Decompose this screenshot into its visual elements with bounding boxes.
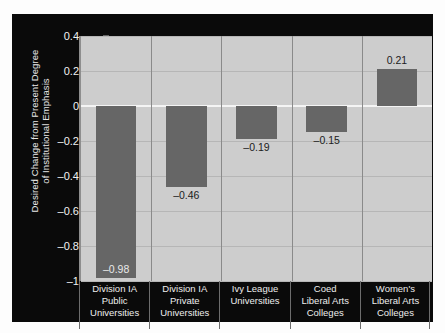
category-label-line: Liberal Arts <box>301 295 349 307</box>
x-axis-category-labels: Division IAPublicUniversitiesDivision IA… <box>79 281 430 329</box>
y-axis-tick-labels: 0.40.20–0.2–0.4–0.6–0.8–1 <box>42 14 79 322</box>
category-label-line: Colleges <box>307 307 344 319</box>
category-label-line: Coed <box>314 283 337 295</box>
bar <box>236 106 277 139</box>
bar-value-label: –0.19 <box>243 141 269 153</box>
category-label-line: Public <box>102 295 128 307</box>
x-axis-category-label: Ivy LeagueUniversities <box>219 281 289 329</box>
chart-figure: Desired Change from Present Degree of In… <box>0 0 445 333</box>
category-label-line: Division IA <box>92 283 137 295</box>
chart-panel: Desired Change from Present Degree of In… <box>12 14 433 322</box>
y-axis-tick-label: 0.4 <box>64 30 79 42</box>
x-axis-category-label: CoedLiberal ArtsColleges <box>290 281 360 329</box>
y-axis-tick-label: –1 <box>67 275 79 287</box>
category-label-line: Universities <box>90 307 139 319</box>
category-label-line: Colleges <box>377 307 414 319</box>
y-axis-title-line1: Desired Change from Present Degree <box>29 50 41 213</box>
bar <box>166 106 207 187</box>
bar-value-label: –0.46 <box>173 189 199 201</box>
bar <box>377 69 418 106</box>
category-label-line: Division IA <box>162 283 207 295</box>
y-axis-tick-label: –0.4 <box>58 170 79 182</box>
bar-value-label: –0.15 <box>314 134 340 146</box>
category-strip-right-edge <box>429 281 430 329</box>
gridline <box>81 36 432 37</box>
category-label-line: Women's <box>376 283 415 295</box>
category-label-line: Universities <box>160 307 209 319</box>
category-divider <box>292 36 293 281</box>
category-label-line: Ivy League <box>232 283 278 295</box>
category-label-line: Private <box>170 295 200 307</box>
y-axis-tick-label: –0.6 <box>58 205 79 217</box>
y-axis-tick-label: 0.2 <box>64 65 79 77</box>
plot-area: –0.98–0.46–0.19–0.150.21 <box>79 36 432 281</box>
bar-value-label: –0.98 <box>103 263 129 275</box>
category-divider <box>221 36 222 281</box>
bar <box>96 106 137 278</box>
x-axis-category-label: Division IAPrivateUniversities <box>149 281 219 329</box>
category-divider <box>362 36 363 281</box>
bar-value-label: 0.21 <box>387 54 407 66</box>
category-label-line: Universities <box>230 295 279 307</box>
category-divider <box>151 36 152 281</box>
x-axis-category-label: Women'sLiberal ArtsColleges <box>360 281 430 329</box>
category-label-line: Liberal Arts <box>372 295 420 307</box>
x-axis-category-label: Division IAPublicUniversities <box>79 281 149 329</box>
y-axis-tick-label: –0.2 <box>58 135 79 147</box>
bar <box>306 106 347 132</box>
y-axis-tick-label: –0.8 <box>58 240 79 252</box>
